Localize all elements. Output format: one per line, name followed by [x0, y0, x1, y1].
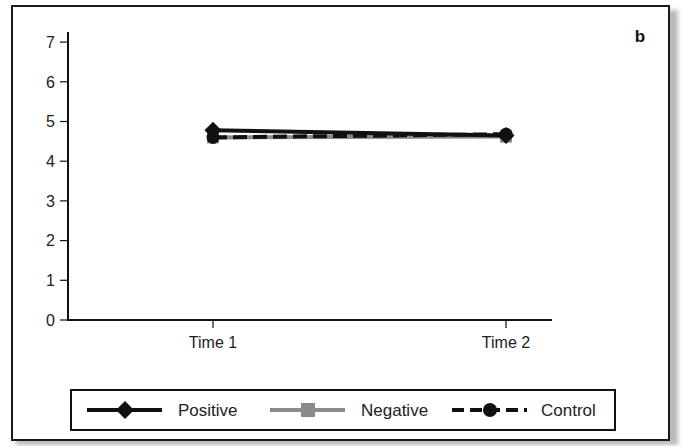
y-tick-labels: 0 1 2 3 4 5 6 7 [46, 34, 55, 329]
y-tick-label: 4 [46, 153, 55, 170]
square-icon [301, 403, 315, 417]
y-tick-label: 6 [46, 74, 55, 91]
x-tick-label: Time 1 [189, 334, 237, 351]
circle-icon [483, 403, 497, 417]
series-positive [205, 122, 515, 144]
y-tick-label: 2 [46, 232, 55, 249]
y-ticks [60, 42, 68, 320]
y-tick-label: 1 [46, 272, 55, 289]
line-chart: b 0 1 2 3 4 5 6 7 Time 1 Time 2 [0, 0, 684, 446]
panel-label: b [635, 27, 645, 46]
legend-label: Control [541, 401, 596, 420]
legend-label: Positive [178, 401, 238, 420]
y-tick-label: 7 [46, 34, 55, 51]
legend: Positive Negative Control [71, 390, 615, 430]
y-tick-label: 5 [46, 113, 55, 130]
legend-label: Negative [361, 401, 428, 420]
y-tick-label: 3 [46, 193, 55, 210]
x-tick-label: Time 2 [482, 334, 530, 351]
y-tick-label: 0 [46, 312, 55, 329]
